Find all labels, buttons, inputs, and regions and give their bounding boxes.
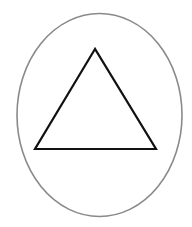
diagram-svg bbox=[0, 0, 192, 227]
diagram-canvas bbox=[0, 0, 192, 227]
outer-ellipse bbox=[17, 14, 182, 217]
inner-triangle bbox=[35, 49, 156, 149]
